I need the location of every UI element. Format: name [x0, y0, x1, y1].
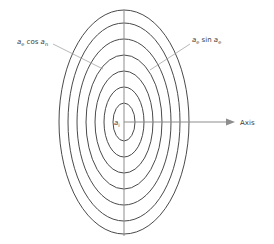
figure-canvas: ae cos an ae sin ae ai Axis [0, 0, 274, 244]
label-center: ai [114, 119, 120, 128]
label-center-sub1: i [118, 122, 119, 128]
label-axis: Axis [240, 119, 255, 127]
label-left: ae cos an [17, 38, 48, 47]
orbit-ellipse-diagram: ae cos an ae sin ae ai Axis [0, 0, 274, 244]
label-right-sub2: e [218, 39, 221, 45]
label-left-mid: cos [24, 38, 40, 46]
label-left-sub2: n [45, 41, 48, 47]
label-right: ae sin ae [192, 36, 221, 45]
arrow-right-icon [226, 119, 235, 126]
label-right-mid: sin [199, 36, 213, 44]
